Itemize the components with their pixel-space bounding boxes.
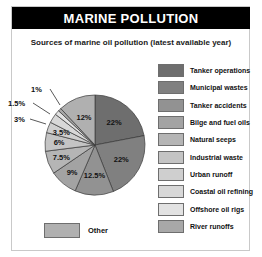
legend-item[interactable]: Bilge and fuel oils xyxy=(158,114,258,131)
legend-swatch xyxy=(158,168,184,181)
pie-slice-label: 1% xyxy=(31,85,42,94)
leader-line xyxy=(50,89,60,105)
legend-label: Natural seeps xyxy=(190,136,236,143)
legend-swatch xyxy=(158,220,184,233)
legend-item[interactable]: Tanker accidents xyxy=(158,97,258,114)
legend-label: Offshore oil rigs xyxy=(190,206,244,213)
legend-item[interactable]: Municipal wastes xyxy=(158,79,258,96)
pie-slice-label: 1.5% xyxy=(8,99,25,108)
leader-line xyxy=(33,103,50,114)
legend-item[interactable]: Natural seeps xyxy=(158,131,258,148)
legend-label: Urban runoff xyxy=(190,171,232,178)
leader-line xyxy=(30,119,46,124)
legend-swatch xyxy=(158,116,184,129)
legend-label-other: Other xyxy=(88,226,108,235)
legend-item[interactable]: Coastal oil refining xyxy=(158,183,258,200)
legend-swatch xyxy=(158,185,184,198)
legend-label: Coastal oil refining xyxy=(190,188,253,195)
legend-swatch xyxy=(158,133,184,146)
legend-swatch xyxy=(158,64,184,77)
pie-slice-label: 12.5% xyxy=(84,171,106,180)
legend-item[interactable]: Offshore oil rigs xyxy=(158,200,258,217)
pie-slice-label: 6% xyxy=(54,138,65,147)
pie-slice-label: 9% xyxy=(67,168,78,177)
pie-slice-label: 7.5% xyxy=(53,153,70,162)
legend-swatch xyxy=(158,203,184,216)
pie-slice-label: 12% xyxy=(76,113,91,122)
legend-swatch xyxy=(158,99,184,112)
legend-item[interactable]: Urban runoff xyxy=(158,166,258,183)
legend-item[interactable]: River runoffs xyxy=(158,218,258,235)
pie-slice-label: 3.5% xyxy=(53,128,70,137)
pie-slice-label: 3% xyxy=(14,115,25,124)
legend-item-other[interactable]: Other xyxy=(44,223,108,238)
legend-label: Municipal wastes xyxy=(190,84,248,91)
legend-label: Tanker operations xyxy=(190,67,250,74)
legend-label: Tanker accidents xyxy=(190,102,247,109)
pie-slice-label: 22% xyxy=(107,118,122,127)
legend-label: Bilge and fuel oils xyxy=(190,119,250,126)
legend-swatch xyxy=(158,151,184,164)
legend-label: River runoffs xyxy=(190,223,234,230)
legend-item[interactable]: Industrial waste xyxy=(158,148,258,165)
legend: Tanker operationsMunicipal wastesTanker … xyxy=(158,62,258,235)
legend-label: Industrial waste xyxy=(190,154,243,161)
legend-item[interactable]: Tanker operations xyxy=(158,62,258,79)
legend-swatch xyxy=(158,81,184,94)
legend-swatch-other xyxy=(44,223,80,238)
pie-slice-label: 22% xyxy=(114,155,129,164)
